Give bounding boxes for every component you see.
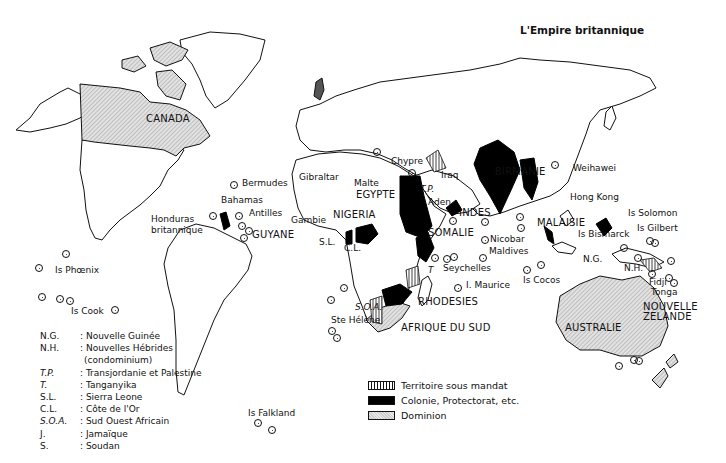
island-marker (431, 254, 439, 262)
island-marker (651, 239, 659, 247)
abbr-row: N.G.: Nouvelle Guinée (40, 330, 202, 342)
tanganyika (406, 266, 420, 288)
abbr-code: J. (40, 428, 80, 440)
label-indes: INDES (459, 208, 491, 218)
colony-swatch-icon (368, 396, 395, 405)
legend-item-dominion: Dominion (368, 408, 519, 423)
abbr-code: S. (40, 440, 80, 452)
abbr-meaning: : Nouvelles Hébrides (80, 342, 173, 354)
island-marker (551, 161, 559, 169)
abbr-code: T.P. (40, 367, 80, 379)
island-marker (635, 357, 643, 365)
abbr-meaning: : Jamaïque (80, 428, 128, 440)
label-aden: Aden (428, 197, 451, 207)
abbr-row: C.L.: Côte de l'Or (40, 403, 202, 415)
abbr-meaning: : Tanganyika (80, 379, 136, 391)
abbr-meaning: : Nouvelle Guinée (80, 330, 160, 342)
abbr-meaning: (condominium) (80, 354, 152, 366)
abbr-meaning: : Sud Ouest Africain (80, 415, 169, 427)
island-marker (481, 236, 489, 244)
island-marker (449, 217, 457, 225)
island-marker (56, 295, 64, 303)
legend-item-mandat: Territoire sous mandat (368, 378, 519, 393)
map-stage: L'Empire britannique CANADA Bermudes Bah… (0, 0, 726, 463)
legend-label: Territoire sous mandat (401, 380, 507, 391)
island-marker (523, 266, 531, 274)
label-afrique-du-sud: AFRIQUE DU SUD (401, 323, 491, 333)
alaska (16, 88, 88, 132)
label-hongkong: Hong Kong (570, 192, 619, 202)
gold-coast (346, 230, 352, 244)
label-gibraltar: Gibraltar (299, 172, 339, 182)
abbr-code: T. (40, 379, 80, 391)
label-soa: S.O.A. (355, 302, 382, 312)
island-marker (327, 296, 335, 304)
island-marker (373, 148, 381, 156)
island-marker (481, 218, 489, 226)
abbr-code: N.H. (40, 342, 80, 354)
label-falkland: Is Falkland (248, 408, 295, 418)
label-tonga: Tonga (651, 287, 677, 297)
label-t: T (428, 265, 434, 275)
abbr-code: S.L. (40, 391, 80, 403)
label-honduras-1: Honduras (151, 214, 194, 224)
label-cl: C.L. (344, 243, 361, 253)
island-marker (62, 250, 70, 258)
island-marker (408, 169, 416, 177)
abbr-code: S.O.A. (40, 415, 80, 427)
label-fidji: Fidji (649, 277, 667, 287)
island-marker (38, 293, 46, 301)
abbr-code: N.G. (40, 330, 80, 342)
abbr-meaning: : Transjordanie et Palestine (80, 367, 202, 379)
label-gambie: Gambie (291, 215, 326, 225)
label-antilles: Antilles (249, 208, 282, 218)
label-st-helene: Ste Hélène (331, 315, 380, 325)
abbr-meaning: : Soudan (80, 440, 120, 452)
label-egypte: EGYPTE (356, 190, 395, 200)
island-marker (254, 419, 262, 427)
abbr-row: T.: Tanganyika (40, 379, 202, 391)
label-nicobar: Nicobar (490, 234, 525, 244)
island-marker (333, 334, 341, 342)
label-tp: T.P. (420, 184, 434, 194)
island-marker (235, 212, 243, 220)
island-marker (340, 284, 348, 292)
island-marker (615, 362, 623, 370)
label-weihawei: Weihawei (573, 163, 616, 173)
label-nigeria: NIGERIA (333, 210, 376, 220)
label-malaisie: MALAISIE (537, 218, 585, 228)
label-rhodesies: RHODESIES (418, 297, 478, 307)
abbr-code (40, 354, 80, 366)
label-guyane: GUYANE (252, 230, 294, 240)
island-marker (634, 254, 642, 262)
island-marker (35, 264, 43, 272)
label-gilbert: Is Gilbert (637, 223, 678, 233)
island-marker (479, 254, 487, 262)
island-marker (454, 284, 462, 292)
label-nh: N.H. (624, 263, 643, 273)
label-bermudes: Bermudes (242, 178, 288, 188)
abbr-meaning: : Sierra Leone (80, 391, 142, 403)
abbr-row: S.L.: Sierra Leone (40, 391, 202, 403)
island-marker (450, 253, 458, 261)
map-legend: Territoire sous mandat Colonie, Protecto… (368, 378, 519, 423)
label-chypre: Chypre (391, 156, 423, 166)
label-sl: S.L. (319, 237, 335, 247)
label-bahamas: Bahamas (221, 195, 263, 205)
label-malte: Malte (354, 178, 379, 188)
island-marker (517, 224, 525, 232)
abbr-row: S.O.A.: Sud Ouest Africain (40, 415, 202, 427)
label-birmanie: BIRMANIE (495, 167, 546, 177)
guyana (220, 212, 230, 230)
label-australie: AUSTRALIE (565, 323, 622, 333)
abbr-row: N.H.: Nouvelles Hébrides (40, 342, 202, 354)
label-solomon: Is Solomon (628, 208, 677, 218)
label-bismarck: Is Bismarck (578, 229, 630, 239)
island-marker (537, 261, 545, 269)
island-marker (209, 212, 217, 220)
island-marker (620, 244, 628, 252)
label-maurice: I. Maurice (466, 280, 510, 290)
label-phoenix: Is Phœnix (55, 265, 99, 275)
island-marker (111, 306, 119, 314)
label-canada: CANADA (146, 114, 190, 124)
